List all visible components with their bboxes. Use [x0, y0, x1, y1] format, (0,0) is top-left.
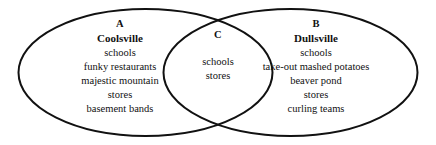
left-set-item: schools — [36, 46, 204, 60]
right-set-title: Dullsville — [232, 31, 400, 46]
intersection-items: schools stores — [180, 55, 256, 83]
left-set-item: basement bands — [36, 102, 204, 116]
left-set-item: funky restaurants — [36, 60, 204, 74]
venn-diagram: A Coolsville schools funky restaurants m… — [0, 0, 436, 145]
intersection-item: stores — [180, 69, 256, 83]
left-set-item: majestic mountain — [36, 74, 204, 88]
right-set-item: take-out mashed potatoes — [232, 60, 400, 74]
right-set-letter: B — [232, 17, 400, 31]
left-set-letter: A — [36, 17, 204, 31]
venn-labels: A Coolsville schools funky restaurants m… — [0, 0, 436, 145]
intersection-letter: C — [180, 28, 256, 42]
right-set-item: beaver pond — [232, 74, 400, 88]
left-set-title: Coolsville — [36, 31, 204, 46]
intersection-label-group: C schools stores — [180, 28, 256, 83]
left-set-item: stores — [36, 88, 204, 102]
right-set-item: schools — [232, 46, 400, 60]
right-set-label-group: B Dullsville schools take-out mashed pot… — [232, 17, 400, 116]
left-set-label-group: A Coolsville schools funky restaurants m… — [36, 17, 204, 116]
right-set-item: stores — [232, 88, 400, 102]
intersection-item: schools — [180, 55, 256, 69]
right-set-item: curling teams — [232, 102, 400, 116]
